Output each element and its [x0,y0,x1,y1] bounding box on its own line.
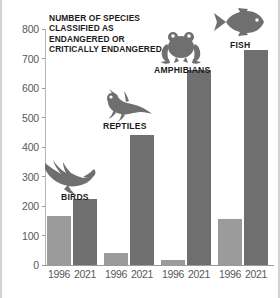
chart-title-line-3: ENDANGERED OR [49,34,162,44]
lizard-icon [98,88,154,122]
bar-fish-2021[interactable] [244,50,268,265]
chart-title-line-2: CLASSIFIED AS [49,23,162,33]
y-tick-label: 200 [22,200,42,212]
bar-reptiles-2021[interactable] [130,135,154,265]
chart-title-line-1: NUMBER OF SPECIES [49,13,162,23]
y-tick-label: 600 [22,82,42,94]
x-label-reptiles-2021: 2021 [127,268,157,280]
group-label-amphibians: AMPHIBIANS [154,65,210,75]
group-label-fish: FISH [230,40,250,50]
y-tick-label: 800 [22,23,42,35]
chart-title: NUMBER OF SPECIES CLASSIFIED AS ENDANGER… [49,13,162,55]
bar-birds-1996[interactable] [47,216,71,265]
bar-fish-1996[interactable] [218,219,242,265]
x-axis-line [45,265,274,266]
y-tick-label: 100 [22,230,42,242]
bar-group-reptiles [104,29,154,265]
y-tick-label: 500 [22,112,42,124]
frog-icon [160,30,202,64]
group-label-birds: BIRDS [61,192,89,202]
y-tick-label: 0 [33,259,42,271]
bar-group-birds [47,29,97,265]
bar-amphibians-2021[interactable] [187,70,211,265]
fish-icon [210,8,266,36]
group-label-reptiles: REPTILES [103,121,147,131]
bar-birds-2021[interactable] [73,199,97,265]
chart-container: 800 700 600 500 400 300 200 100 [0,0,280,298]
x-label-fish-2021: 2021 [241,268,271,280]
chart-title-line-4: CRITICALLY ENDANGERED [49,44,162,54]
bar-group-fish [218,29,268,265]
x-label-birds-2021: 2021 [70,268,100,280]
bird-icon [42,158,98,196]
y-axis: 800 700 600 500 400 300 200 100 [2,0,46,298]
y-tick-label: 700 [22,53,42,65]
x-label-amphibians-2021: 2021 [184,268,214,280]
bar-reptiles-1996[interactable] [104,253,128,265]
y-tick-label: 400 [22,141,42,153]
y-tick-label: 300 [22,171,42,183]
